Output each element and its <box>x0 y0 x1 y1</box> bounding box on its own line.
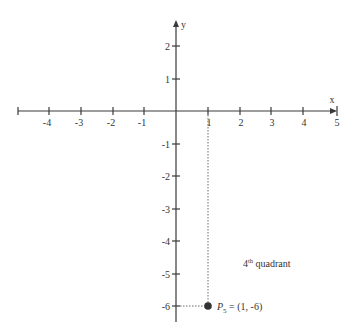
point-p5-label: P5 = (1, -6) <box>216 301 262 315</box>
point-name: P <box>216 301 223 312</box>
x-tick-label: -2 <box>107 117 115 128</box>
x-tick-label: 4 <box>302 117 307 128</box>
y-axis-arrow-icon <box>173 20 179 27</box>
x-tick-label: 5 <box>335 117 340 128</box>
point-p5-marker <box>204 302 212 310</box>
y-axis-name: y <box>181 19 186 30</box>
y-tick-label: 1 <box>165 74 170 85</box>
y-tick-label: 2 <box>165 41 170 52</box>
x-tick-label: -1 <box>138 117 146 128</box>
y-tick-label: -3 <box>162 204 170 215</box>
x-tick-label: -4 <box>43 117 51 128</box>
coordinate-plane: x y -4 -3 -2 -1 1 2 3 4 5 2 1 -1 <box>0 0 355 335</box>
y-tick-labels: 2 1 -1 -2 -3 -4 -5 -6 <box>162 41 170 312</box>
point-coords: = (1, -6) <box>227 301 263 313</box>
x-tick-label: 3 <box>270 117 275 128</box>
y-tick-label: -2 <box>162 171 170 182</box>
x-tick-labels: -4 -3 -2 -1 1 2 3 4 5 <box>43 117 340 128</box>
y-tick-label: -6 <box>162 301 170 312</box>
x-tick-label: -3 <box>75 117 83 128</box>
quadrant-text: quadrant <box>253 258 291 269</box>
x-tick-label: 1 <box>207 117 212 128</box>
x-tick-label: 2 <box>239 117 244 128</box>
x-axis-arrow-icon <box>330 108 337 114</box>
y-tick-label: -1 <box>162 139 170 150</box>
y-tick-label: -5 <box>162 269 170 280</box>
y-tick-label: -4 <box>162 236 170 247</box>
quadrant-label: 4th quadrant <box>243 257 291 269</box>
x-axis-name: x <box>330 94 335 105</box>
